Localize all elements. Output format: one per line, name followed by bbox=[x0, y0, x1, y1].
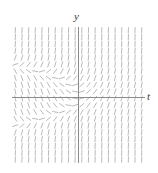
slope-segment bbox=[81, 62, 82, 67]
slope-segment bbox=[68, 137, 69, 142]
slope-segment bbox=[75, 62, 76, 67]
slope-segment bbox=[73, 104, 78, 106]
slope-segment bbox=[41, 123, 43, 128]
slope-segment bbox=[15, 41, 16, 46]
slope-segment bbox=[39, 118, 44, 120]
slope-segment bbox=[135, 62, 136, 67]
slope-segment bbox=[35, 130, 36, 135]
slope-segment bbox=[60, 90, 63, 94]
slope-segment bbox=[134, 96, 135, 101]
slope-segment bbox=[88, 130, 89, 135]
slope-segment bbox=[121, 123, 122, 128]
slope-field-plot bbox=[0, 0, 158, 173]
slope-segment bbox=[75, 48, 76, 53]
slope-segment bbox=[15, 48, 16, 53]
slope-segment bbox=[73, 98, 78, 99]
slope-segment bbox=[121, 103, 122, 108]
slope-segment bbox=[54, 117, 57, 121]
slope-segment bbox=[94, 89, 97, 93]
slope-segment bbox=[135, 109, 136, 114]
slope-segment bbox=[95, 55, 96, 60]
slope-segment bbox=[54, 69, 57, 73]
slope-segment bbox=[20, 63, 24, 66]
slope-segment bbox=[134, 82, 135, 87]
slope-segment bbox=[100, 96, 103, 101]
slope-segment bbox=[107, 96, 109, 101]
slope-segment bbox=[88, 62, 89, 67]
slope-segment bbox=[15, 103, 16, 108]
slope-segment bbox=[27, 62, 30, 66]
slope-segment bbox=[28, 76, 30, 81]
slope-segment bbox=[61, 69, 64, 74]
slope-segment bbox=[41, 82, 43, 87]
slope-segment bbox=[121, 69, 122, 74]
slope-segment bbox=[108, 69, 109, 74]
slope-segment bbox=[62, 48, 63, 53]
slope-segment bbox=[66, 84, 71, 85]
slope-segment bbox=[68, 130, 69, 135]
slope-segment bbox=[20, 124, 24, 127]
slope-segment bbox=[94, 75, 96, 80]
slope-segment bbox=[128, 62, 129, 67]
slope-segment bbox=[128, 82, 129, 87]
slope-segment bbox=[41, 96, 43, 101]
axes-group bbox=[12, 27, 145, 163]
slope-segment bbox=[141, 103, 142, 108]
slope-segment bbox=[73, 84, 78, 86]
slope-segment bbox=[54, 89, 57, 94]
slope-segment bbox=[121, 96, 123, 101]
slope-segment bbox=[108, 116, 109, 121]
slope-segment bbox=[115, 116, 116, 121]
slope-segment bbox=[48, 137, 49, 142]
slope-segment bbox=[80, 83, 84, 86]
slope-segment bbox=[55, 48, 56, 53]
slope-segment bbox=[108, 109, 109, 114]
slope-segment bbox=[34, 96, 36, 101]
slope-segment bbox=[75, 137, 76, 142]
slope-segment bbox=[15, 96, 16, 101]
slope-segment bbox=[115, 130, 116, 135]
slope-segment bbox=[53, 111, 58, 112]
slope-segment bbox=[28, 89, 29, 94]
slope-segment bbox=[14, 69, 17, 74]
slope-segment bbox=[95, 130, 96, 135]
slope-segment bbox=[62, 137, 63, 142]
slope-segment bbox=[114, 109, 115, 114]
slope-segment bbox=[81, 116, 83, 121]
slope-segment bbox=[28, 143, 29, 148]
slope-segment bbox=[66, 90, 70, 93]
slope-segment bbox=[74, 69, 76, 74]
slope-segment bbox=[21, 109, 23, 114]
slope-segment bbox=[21, 55, 23, 60]
direction-field-segments bbox=[13, 28, 142, 163]
slope-segment bbox=[55, 55, 56, 60]
slope-segment bbox=[101, 82, 103, 87]
slope-segment bbox=[101, 75, 103, 80]
slope-segment bbox=[141, 75, 142, 80]
slope-segment bbox=[34, 76, 37, 81]
slope-segment bbox=[21, 82, 22, 87]
slope-segment bbox=[35, 48, 36, 53]
slope-segment bbox=[128, 96, 129, 101]
slope-segment bbox=[134, 103, 135, 108]
slope-segment bbox=[141, 69, 142, 74]
slope-segment bbox=[128, 89, 129, 94]
slope-segment bbox=[15, 109, 17, 114]
slope-segment bbox=[21, 103, 22, 108]
slope-segment bbox=[95, 123, 96, 128]
slope-segment bbox=[59, 77, 64, 79]
slope-segment bbox=[41, 62, 43, 67]
slope-segment bbox=[88, 55, 89, 60]
slope-segment bbox=[35, 137, 36, 142]
slope-segment bbox=[94, 109, 96, 114]
slope-segment bbox=[55, 137, 56, 142]
slope-segment bbox=[75, 130, 76, 135]
slope-segment bbox=[47, 96, 49, 101]
slope-segment bbox=[61, 62, 62, 67]
slope-segment bbox=[121, 82, 122, 87]
slope-segment bbox=[15, 143, 16, 148]
slope-segment bbox=[34, 123, 37, 128]
slope-segment bbox=[115, 62, 116, 67]
slope-segment bbox=[54, 123, 56, 128]
slope-segment bbox=[141, 96, 142, 101]
